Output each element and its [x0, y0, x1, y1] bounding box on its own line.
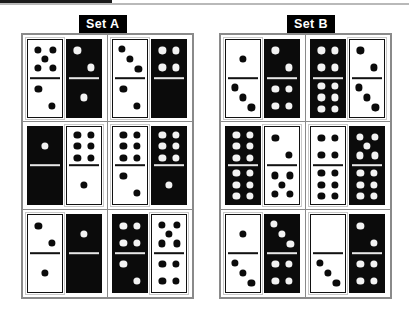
domino-6-2	[112, 126, 148, 205]
domino-pair-r2-c2	[108, 122, 193, 209]
domino-half-bottom	[152, 165, 186, 204]
domino-pip	[357, 261, 364, 268]
domino-pair-r3-c2	[108, 210, 193, 297]
domino-half-bottom	[152, 253, 186, 292]
domino-pip	[48, 239, 55, 246]
domino-pip	[231, 84, 238, 91]
domino-pip	[120, 261, 127, 268]
domino-pip	[81, 230, 88, 237]
domino-pip	[120, 222, 127, 229]
top-rule-line	[0, 3, 409, 5]
domino-pip	[371, 133, 378, 140]
domino-half-bottom	[311, 253, 345, 292]
domino-half-bottom	[350, 253, 384, 292]
set-a-label: Set A	[79, 15, 127, 34]
domino-4-0	[151, 39, 187, 118]
domino-6-1	[66, 126, 102, 205]
domino-pip	[331, 193, 338, 200]
domino-pip	[331, 181, 338, 188]
domino-pair-r3-c1	[221, 210, 306, 297]
domino-pair-r2-c1	[23, 122, 108, 209]
set-a-grid	[23, 35, 192, 297]
domino-pip	[357, 193, 364, 200]
domino-half-top	[350, 127, 384, 166]
domino-pip	[74, 154, 81, 161]
domino-pip	[233, 131, 240, 138]
domino-pip	[172, 261, 179, 268]
domino-half-bottom	[311, 78, 345, 117]
domino-half-top	[113, 127, 147, 166]
domino-half-top	[152, 215, 186, 254]
domino-pip	[318, 181, 325, 188]
domino-pip	[246, 154, 253, 161]
domino-half-bottom	[226, 165, 260, 204]
domino-half-bottom	[226, 253, 260, 292]
domino-pip	[364, 143, 371, 150]
domino-1-0	[66, 214, 102, 293]
domino-pip	[120, 154, 127, 161]
domino-pip	[48, 102, 55, 109]
domino-half-top	[67, 127, 101, 166]
domino-pip	[158, 240, 165, 247]
domino-pip	[372, 104, 379, 111]
domino-pip	[355, 84, 362, 91]
domino-half-bottom	[28, 253, 62, 292]
domino-pip	[172, 277, 179, 284]
domino-pip	[318, 105, 325, 112]
domino-half-top	[28, 127, 62, 166]
domino-pip	[285, 64, 292, 71]
domino-pip	[166, 181, 173, 188]
domino-pip	[272, 261, 279, 268]
domino-half-top	[311, 40, 345, 79]
domino-pip	[49, 46, 56, 53]
domino-half-bottom	[265, 78, 299, 117]
domino-half-bottom	[350, 165, 384, 204]
domino-pip	[159, 131, 166, 138]
domino-half-bottom	[311, 165, 345, 204]
domino-pip	[74, 47, 81, 54]
domino-pip	[279, 230, 286, 237]
domino-pip	[246, 181, 253, 188]
domino-pip	[331, 170, 338, 177]
domino-pip	[74, 131, 81, 138]
set-b-grid	[221, 35, 390, 297]
domino-pip	[133, 222, 140, 229]
domino-pip	[285, 85, 292, 92]
domino-pip	[231, 259, 238, 266]
domino-pip	[120, 85, 127, 92]
domino-pip	[133, 143, 140, 150]
domino-pip	[240, 269, 247, 276]
domino-1-3	[225, 214, 261, 293]
domino-half-bottom	[28, 165, 62, 204]
domino-pip	[120, 173, 127, 180]
domino-pip	[34, 46, 41, 53]
domino-pair-r3-c2	[306, 210, 391, 297]
domino-half-bottom	[67, 253, 101, 292]
domino-half-top	[265, 215, 299, 254]
domino-6-6	[225, 126, 261, 205]
domino-3-4	[264, 214, 300, 293]
domino-pip	[133, 154, 140, 161]
domino-half-bottom	[67, 78, 101, 117]
domino-pip	[272, 102, 279, 109]
domino-pip	[159, 277, 166, 284]
domino-half-top	[226, 40, 260, 79]
domino-2-4	[264, 39, 300, 118]
domino-pip	[127, 55, 134, 62]
domino-half-top	[265, 127, 299, 166]
domino-half-bottom	[67, 165, 101, 204]
set-b-panel	[219, 33, 392, 299]
domino-pair-r2-c2	[306, 122, 391, 209]
domino-half-top	[28, 215, 62, 254]
domino-half-top	[152, 40, 186, 79]
domino-pip	[233, 154, 240, 161]
domino-pip	[81, 181, 88, 188]
domino-pip	[357, 222, 364, 229]
domino-5-4	[151, 214, 187, 293]
domino-half-top	[113, 40, 147, 79]
domino-half-bottom	[113, 78, 147, 117]
domino-pip	[87, 131, 94, 138]
domino-pip	[371, 152, 378, 159]
domino-pip	[333, 279, 340, 286]
domino-2-1	[27, 214, 63, 293]
